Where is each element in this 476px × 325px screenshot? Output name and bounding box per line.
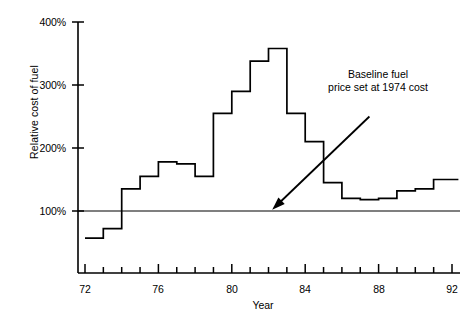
arrow-shaft [279,117,370,204]
fuel-cost-step-line [85,49,458,239]
annotation-arrow [272,117,369,210]
x-axis-ticks [85,264,452,273]
fuel-cost-chart: Relative cost of fuel Year 400% 300% 200… [0,0,476,325]
plot-area [0,0,476,325]
